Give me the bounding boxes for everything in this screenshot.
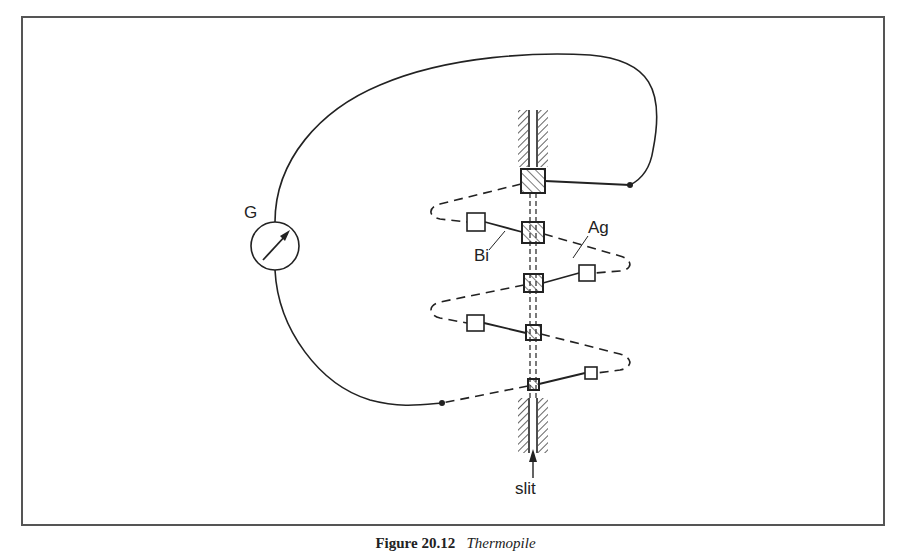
figure-caption: Figure 20.12 Thermopile (0, 535, 911, 552)
galvanometer-label: G (244, 204, 257, 221)
slit-shield-bottom (518, 398, 548, 453)
hot-junction-4 (526, 325, 541, 340)
slit-shield-top (518, 110, 548, 167)
hot-junction-1 (521, 169, 545, 193)
bi-leader-line (489, 231, 505, 250)
junction-dot-bottom (439, 400, 445, 406)
caption-figure-number: Figure 20.12 (375, 535, 455, 551)
cold-junction-1 (467, 213, 485, 231)
ag-label: Ag (588, 219, 609, 236)
bi-wires (484, 181, 630, 384)
hot-junctions (521, 169, 545, 390)
bi-wire-2 (485, 222, 522, 232)
ag-leader-line (573, 236, 588, 258)
ag-wire-5 (442, 386, 528, 403)
bi-wire-3 (543, 273, 579, 283)
hot-junction-3 (524, 274, 543, 292)
slit-arrow-icon (529, 449, 537, 478)
cold-junction-2 (579, 265, 595, 281)
hot-junction-5 (528, 379, 539, 390)
bi-label: Bi (474, 247, 489, 264)
bi-wire-1 (545, 181, 630, 185)
bi-wire-4 (484, 323, 526, 333)
cold-junction-3 (467, 315, 484, 331)
hot-junction-2 (522, 222, 544, 243)
cold-junction-4 (585, 367, 597, 379)
bi-wire-5 (539, 373, 585, 384)
caption-title: Thermopile (466, 535, 535, 551)
galvanometer-icon (251, 222, 299, 270)
slit-label: slit (515, 480, 536, 497)
